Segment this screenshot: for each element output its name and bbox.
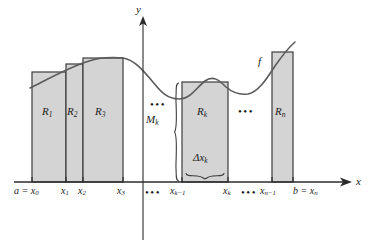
tick-label-b-xn-sub: n: [314, 189, 317, 196]
annotation-Mk-main: M: [146, 113, 155, 125]
tick-label-b-xn-main: b = x: [293, 185, 314, 196]
tick-label-x3: x3: [117, 186, 125, 197]
rect-label-Rk: Rk: [197, 106, 207, 118]
mk-brace: [175, 83, 179, 181]
bar-Rk: [182, 82, 228, 182]
tick-label-a-x0: a = x0: [14, 186, 39, 197]
rect-label-R3-main: R: [95, 105, 102, 117]
riemann-sum-figure: y x f R1 R2 R3 Rk Rn Mk Δxk ••• ••• ••• …: [0, 0, 371, 250]
rect-label-Rn-main: R: [275, 105, 282, 117]
ellipsis-axis-1: •••: [145, 186, 161, 198]
bar-R2: [66, 64, 83, 182]
rect-label-R3: R3: [95, 106, 105, 118]
rect-label-R2-main: R: [67, 105, 74, 117]
rect-label-Rk-main: R: [197, 105, 204, 117]
rect-label-R3-sub: 3: [102, 110, 106, 119]
annotation-delta-xk: Δxk: [193, 152, 208, 164]
tick-label-b-xn: b = xn: [293, 186, 318, 197]
tick-label-a-x0-sub: 0: [35, 189, 38, 196]
tick-label-x3-sub: 3: [121, 189, 124, 196]
tick-label-xk-1-sub: k−1: [174, 189, 185, 196]
tick-label-x2: x2: [78, 186, 86, 197]
rect-label-Rn-sub: n: [282, 110, 286, 119]
ellipsis-upper-1: •••: [150, 98, 166, 110]
y-axis: [139, 16, 147, 240]
x-axis-label: x: [356, 176, 361, 187]
tick-label-a-x0-main: a = x: [14, 185, 35, 196]
bar-R3: [83, 58, 123, 182]
tick-label-xn-1: xn−1: [260, 186, 276, 197]
tick-label-x1: x1: [61, 186, 69, 197]
figure-canvas: [0, 0, 371, 250]
function-label: f: [258, 56, 261, 67]
y-axis-label: y: [136, 4, 141, 15]
tick-label-xn-1-sub: n−1: [264, 189, 275, 196]
rect-label-R2: R2: [67, 106, 77, 118]
rect-label-Rk-sub: k: [204, 110, 207, 119]
tick-label-xk-1: xk−1: [170, 186, 185, 197]
annotation-Mk-sub: k: [155, 118, 158, 127]
tick-label-x2-sub: 2: [82, 189, 85, 196]
rect-label-R1-sub: 1: [49, 110, 53, 119]
bar-R1: [32, 72, 66, 182]
annotation-Mk: Mk: [146, 114, 159, 126]
tick-label-xk: xk: [223, 186, 230, 197]
ellipsis-axis-2: •••: [241, 186, 257, 198]
ellipsis-upper-2: •••: [238, 105, 254, 117]
rect-label-R1-main: R: [42, 105, 49, 117]
rect-label-Rn: Rn: [275, 106, 285, 118]
annotation-delta-xk-main: Δx: [193, 151, 204, 163]
rect-label-R2-sub: 2: [74, 110, 78, 119]
rect-label-R1: R1: [42, 106, 52, 118]
annotation-delta-xk-sub: k: [204, 156, 207, 165]
tick-label-x1-sub: 1: [65, 189, 68, 196]
tick-label-xk-sub: k: [227, 189, 230, 196]
